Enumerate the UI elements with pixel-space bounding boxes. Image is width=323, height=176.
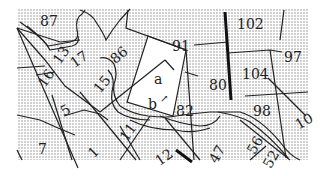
parcel-label-7: 7 [38,142,47,156]
parcel-label-b: b [148,97,157,111]
parcel-label-98: 98 [253,104,271,118]
parcel-label-87: 87 [40,14,58,28]
parcel-label-82: 82 [176,104,194,118]
parcel-label-a: a [154,72,162,86]
parcel-label-97: 97 [284,50,302,64]
parcel-label-80: 80 [209,78,227,92]
parcel-label-102: 102 [237,17,264,31]
arrow-marker-icon: ↗ [160,94,168,104]
plat-map: 87102979116131786ab801041558298101171124… [0,0,323,176]
parcel-label-104: 104 [242,67,269,81]
parcel-label-91: 91 [172,39,190,53]
